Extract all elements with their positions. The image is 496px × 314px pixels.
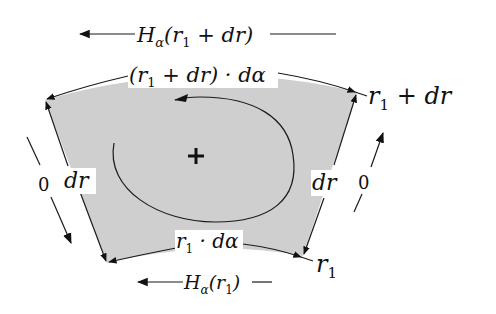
left-zero-label: 0 bbox=[38, 174, 49, 195]
bottom-force-label: Hα(r1) bbox=[183, 271, 240, 297]
outer-radius-leader bbox=[355, 92, 367, 96]
left-zero-arrow-tail bbox=[27, 137, 40, 165]
left-dr-label: dr bbox=[64, 168, 90, 193]
inner-radius-label: r1 bbox=[316, 250, 337, 282]
top-force-label: Hα(r1 + dr) bbox=[136, 23, 253, 50]
right-zero-arrow bbox=[371, 133, 383, 167]
inner-radius-leader bbox=[301, 257, 313, 261]
right-dr-label: dr bbox=[312, 170, 338, 195]
inner-arc-label: r1 · dα bbox=[176, 229, 239, 256]
diagram-canvas: Hα(r1 + dr) (r1 + dr) · dα r1 + dr dr 0 … bbox=[0, 0, 496, 314]
outer-radius-label: r1 + dr bbox=[368, 82, 453, 114]
left-zero-arrow bbox=[51, 197, 71, 243]
right-zero-label: 0 bbox=[358, 172, 369, 193]
right-zero-arrow-tail bbox=[354, 194, 362, 212]
